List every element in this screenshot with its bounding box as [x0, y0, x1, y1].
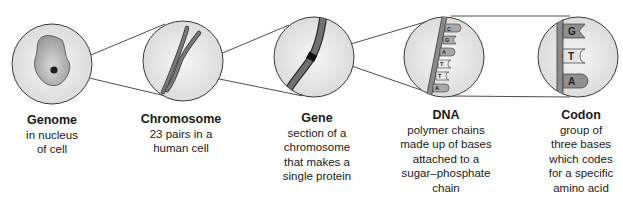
stage-label-gene: Gene section of a chromosome that makes … — [252, 111, 382, 184]
gene-illustration — [274, 10, 354, 97]
dna-illustration: C G A T T A — [404, 12, 484, 104]
stage-description: in nucleus of cell — [0, 128, 117, 157]
genome-illustration — [12, 24, 92, 104]
stage-description: group of three bases which codes for a s… — [516, 123, 623, 196]
dna-base-label: G — [445, 37, 449, 43]
chromosome-illustration — [143, 21, 223, 101]
stage-label-codon: Codon group of three bases which codes f… — [516, 108, 623, 195]
stage-description: 23 pairs in a human cell — [116, 127, 246, 156]
stage-title: Chromosome — [116, 112, 246, 127]
stage-description: section of a chromosome that makes a sin… — [252, 126, 382, 184]
codon-illustration: G T A — [538, 14, 618, 104]
codon-base-label: G — [568, 26, 576, 37]
stage-title: Genome — [0, 113, 117, 128]
codon-base-label: A — [568, 76, 575, 87]
stage-title: Gene — [252, 111, 382, 126]
dna-base-label: C — [447, 26, 451, 32]
stage-label-chromosome: Chromosome 23 pairs in a human cell — [116, 112, 246, 156]
stage-description: polymer chains made up of bases attached… — [381, 123, 511, 196]
stage-title: Codon — [516, 108, 623, 123]
codon-base-label: T — [568, 51, 574, 62]
dna-base-label: A — [442, 49, 446, 55]
genome-to-codon-diagram: C G A T T A G T A — [0, 0, 623, 120]
stage-label-dna: DNA polymer chains made up of bases atta… — [381, 108, 511, 195]
dna-base-label: A — [435, 85, 439, 91]
stage-label-genome: Genome in nucleus of cell — [0, 113, 117, 157]
stage-title: DNA — [381, 108, 511, 123]
